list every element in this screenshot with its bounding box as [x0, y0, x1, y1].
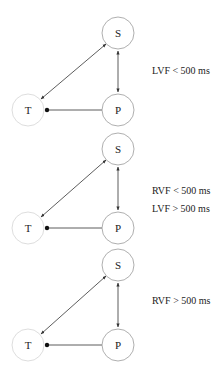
node-t-label: T	[25, 222, 32, 234]
diagram-canvas: S P T LVF < 500 ms S P T RVF < 500 ms LV…	[0, 0, 222, 373]
edge-s-t	[41, 160, 106, 217]
condition-label: RVF < 500 ms	[152, 185, 211, 196]
node-t-label: T	[25, 339, 32, 351]
node-p-label: P	[115, 104, 121, 116]
dot-icon	[45, 343, 49, 347]
condition-label: RVF > 500 ms	[152, 295, 211, 306]
dot-icon	[45, 108, 49, 112]
node-p-label: P	[115, 339, 121, 351]
node-s-label: S	[115, 259, 121, 271]
condition-label: LVF > 500 ms	[152, 203, 210, 214]
edge-s-t	[41, 276, 106, 334]
diagram-3: S P T RVF > 500 ms	[12, 249, 211, 361]
node-s-label: S	[115, 27, 121, 39]
condition-label: LVF < 500 ms	[152, 65, 210, 76]
diagram-2: S P T RVF < 500 ms LVF > 500 ms	[12, 133, 211, 244]
edge-s-t	[41, 44, 106, 99]
diagram-1: S P T LVF < 500 ms	[12, 17, 210, 126]
node-s-label: S	[115, 143, 121, 155]
node-t-label: T	[25, 104, 32, 116]
node-p-label: P	[115, 222, 121, 234]
dot-icon	[45, 226, 49, 230]
